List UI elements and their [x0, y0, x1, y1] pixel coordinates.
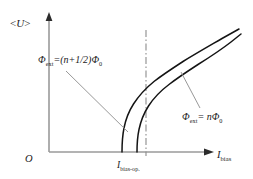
y-axis-arrow-icon	[46, 12, 53, 21]
tick-label-subscript: bias-op.	[120, 166, 140, 172]
tick-label-bias-operating-point: Ibias-op.	[117, 161, 140, 173]
x-axis-label-subscript: bias	[221, 155, 232, 162]
annotation-flux-half-symbol2: Φ	[91, 54, 99, 65]
annotation-flux-half-subscript2: 0	[99, 60, 102, 67]
chart-canvas	[0, 0, 253, 179]
x-axis-arrow-icon	[204, 148, 214, 155]
figure-container: <<U>U> Ibias O Ibias-op. Φext=(n+1/2)Φ0 …	[0, 0, 253, 179]
annotation-flux-half-symbol: Φ	[38, 54, 46, 65]
leader-line-flux-half	[66, 71, 128, 132]
annotation-flux-half-relation: =(n+1/2)	[53, 54, 91, 65]
origin-label: O	[25, 154, 33, 165]
annotation-flux-integer: Φext= nΦ0	[182, 112, 223, 124]
curve-flux-half	[122, 29, 239, 152]
curve-flux-integer	[137, 34, 241, 152]
y-axis-label: <<U>U>	[10, 18, 30, 29]
leader-line-flux-integer	[181, 72, 200, 108]
annotation-flux-integer-relation: = n	[197, 111, 211, 122]
annotation-flux-half: Φext=(n+1/2)Φ0	[38, 55, 102, 67]
annotation-flux-integer-subscript2: 0	[219, 117, 222, 124]
x-axis-label: Ibias	[217, 150, 231, 163]
annotation-flux-integer-symbol: Φ	[182, 111, 190, 122]
